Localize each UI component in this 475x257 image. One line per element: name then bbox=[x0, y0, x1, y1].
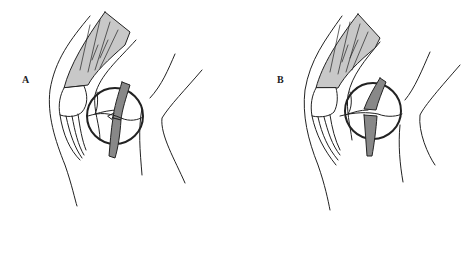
panel-b: B bbox=[240, 0, 475, 220]
knee-diagram-b bbox=[240, 0, 475, 220]
knee-diagram-a bbox=[0, 0, 237, 220]
panel-a: A bbox=[0, 0, 237, 220]
